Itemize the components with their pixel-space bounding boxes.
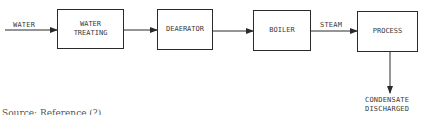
node-deaerator-label: DEAERATOR (166, 25, 204, 34)
node-boiler: BOILER (253, 10, 311, 51)
node-water-treating-label: WATER TREATING (74, 20, 108, 38)
water-input-label: WATER (13, 21, 35, 29)
figure-caption: Source: Reference (?) (2, 108, 101, 115)
steam-label: STEAM (320, 21, 342, 29)
condensate-label: CONDENSATE (365, 96, 409, 104)
node-boiler-label: BOILER (269, 26, 294, 35)
node-water-treating: WATER TREATING (57, 9, 124, 49)
discharged-label: DISCHARGED (365, 105, 409, 113)
node-deaerator: DEAERATOR (157, 9, 213, 50)
node-process-label: PROCESS (373, 27, 403, 36)
node-process: PROCESS (357, 11, 418, 52)
